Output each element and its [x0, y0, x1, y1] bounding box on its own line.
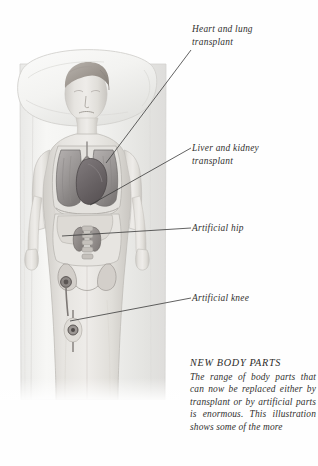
caption-title: NEW BODY PARTS — [190, 357, 316, 368]
label-artificial-knee: Artificial knee — [192, 292, 304, 305]
illustration-page: Heart and lung transplant Liver and kidn… — [0, 0, 318, 466]
caption-block: NEW BODY PARTS The range of body parts t… — [190, 357, 316, 433]
spine — [82, 226, 93, 259]
thoracic-organs — [52, 142, 121, 218]
label-liver-and-kidney-transplant: Liver and kidney transplant — [192, 142, 304, 167]
caption-body: The range of body parts that can now be … — [190, 371, 316, 433]
anatomy-illustration — [0, 0, 180, 400]
label-heart-and-lung-transplant: Heart and lung transplant — [192, 23, 304, 48]
label-artificial-hip: Artificial hip — [192, 222, 304, 235]
